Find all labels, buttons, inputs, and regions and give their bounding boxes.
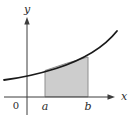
diagram-canvas: y x 0 a b bbox=[0, 0, 134, 121]
lower-bound-label: a bbox=[42, 100, 49, 113]
origin-label: 0 bbox=[13, 100, 19, 111]
upper-bound-label: b bbox=[84, 100, 91, 113]
y-axis-arrowhead-icon bbox=[24, 17, 29, 25]
shaded-region bbox=[45, 57, 88, 97]
x-axis-arrowhead-icon bbox=[108, 94, 116, 99]
figure: y x 0 a b bbox=[0, 0, 134, 121]
x-axis-label: x bbox=[121, 90, 128, 103]
y-axis-label: y bbox=[23, 3, 31, 16]
